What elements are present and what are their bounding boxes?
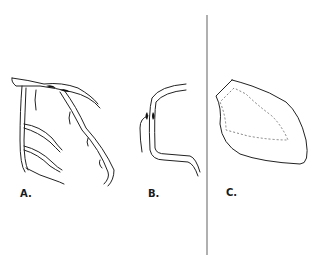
panel-label-c: C.: [226, 187, 237, 198]
panel-label-a: A.: [20, 188, 32, 199]
panel-c-drawing: [216, 80, 307, 164]
panel-label-b: B.: [148, 188, 159, 199]
panel-a-drawing: [12, 78, 114, 186]
figure-canvas: [0, 0, 317, 255]
panel-b-drawing: [140, 84, 200, 176]
